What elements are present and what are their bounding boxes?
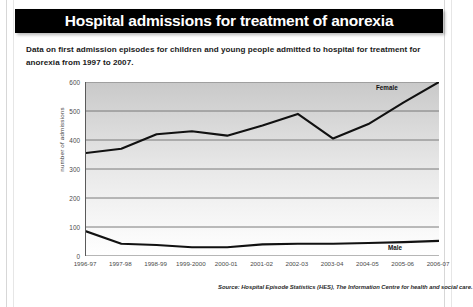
x-axis-tick-label: 2006-07 (427, 260, 450, 267)
page-gutter-left (6, 0, 7, 307)
x-axis-tick-label: 1999-2000 (176, 260, 206, 267)
x-axis-tick-label: 2005-06 (391, 260, 414, 267)
x-axis-tick-label: 1997-98 (109, 260, 132, 267)
y-axis-tick-label: 300 (54, 166, 80, 173)
y-axis-tick-label: 500 (54, 108, 80, 115)
x-axis-tick-label: 1996-97 (74, 260, 97, 267)
page-gutter-left-2 (13, 0, 14, 307)
x-axis-tick-label: 2000-01 (215, 260, 238, 267)
source-note: Source: Hospital Episode Statistics (HES… (218, 284, 473, 290)
chart-plot-area (85, 82, 439, 256)
chart-figure: number of admissions 0100200300400500600… (18, 78, 438, 274)
y-axis-tick-label: 200 (54, 195, 80, 202)
x-axis-tick-label: 1998-99 (144, 260, 167, 267)
x-axis-tick-label: 2001-02 (250, 260, 273, 267)
y-axis-tick-label: 0 (54, 253, 80, 260)
y-axis-tick-label: 100 (54, 224, 80, 231)
series-label-male: Male (388, 244, 402, 251)
series-label-female: Female (376, 84, 398, 91)
y-axis-tick-label: 600 (54, 79, 80, 86)
x-axis-tick-label: 2004-05 (356, 260, 379, 267)
x-axis-tick-label: 2003-04 (321, 260, 344, 267)
page-title: Hospital admissions for treatment of ano… (65, 12, 394, 30)
page-gutter-right-2 (451, 0, 452, 307)
x-axis-tick-label: 2002-03 (285, 260, 308, 267)
series-line-male (86, 231, 439, 247)
line-chart-svg (86, 82, 439, 256)
chart-subtitle: Data on first admission episodes for chi… (26, 44, 426, 69)
series-line-female (86, 82, 439, 153)
x-axis-tick-labels: 1996-971997-981998-991999-20002000-01200… (85, 260, 438, 272)
chart-title-bar: Hospital admissions for treatment of ano… (15, 9, 443, 33)
y-axis-tick-labels: 0100200300400500600 (54, 78, 80, 274)
y-axis-tick-label: 400 (54, 137, 80, 144)
